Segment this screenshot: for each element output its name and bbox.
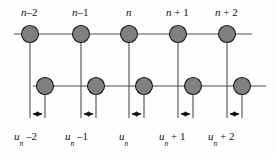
- upper-atom-4: [219, 26, 236, 43]
- upper-atom-1: [73, 26, 90, 43]
- lower-atom-4: [234, 78, 251, 95]
- label-n-minus-1: n–1: [72, 7, 89, 18]
- lower-atom-2: [136, 78, 153, 95]
- lower-guide-lines: [45, 94, 242, 118]
- upper-atom-0: [22, 26, 39, 43]
- label-u-n-minus-1: un –1: [65, 131, 88, 142]
- upper-atom-2: [121, 26, 138, 43]
- lower-atom-0: [37, 78, 54, 95]
- label-u-n: un: [119, 131, 128, 142]
- upper-atom-3: [170, 26, 187, 43]
- label-n: n: [126, 7, 132, 18]
- lower-atom-1: [88, 78, 105, 95]
- lattice-figure: n–2n–1nn + 1n + 2 un –2un –1unun + 1un +…: [0, 0, 276, 154]
- label-n-minus-2: n–2: [21, 7, 38, 18]
- lower-atom-3: [185, 78, 202, 95]
- label-n-plus-2: n + 2: [215, 7, 238, 18]
- label-u-n-plus-1: un + 1: [159, 131, 185, 142]
- lattice-diagram-svg: [0, 0, 276, 154]
- label-n-plus-1: n + 1: [166, 7, 189, 18]
- label-u-n-plus-2: un + 2: [208, 131, 234, 142]
- label-u-n-minus-2: un –2: [14, 131, 37, 142]
